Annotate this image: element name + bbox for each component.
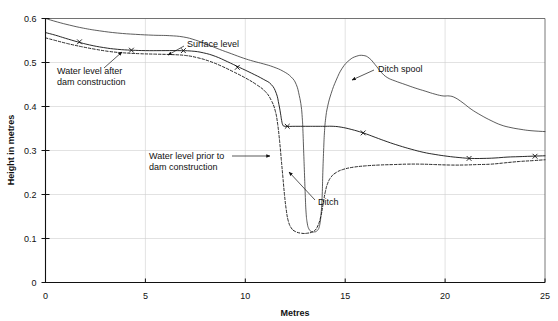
x-tick-label: 0 xyxy=(43,291,48,301)
annotation-label-water-level-after: Water level afterdam construction xyxy=(57,66,126,87)
x-tick-label: 20 xyxy=(440,291,450,301)
y-tick-label: 0.5 xyxy=(24,58,37,68)
y-tick-label: 0.2 xyxy=(24,190,37,200)
annotation-label-water-level-prior: Water level prior todam construction xyxy=(149,151,224,172)
y-tick-label: 0.1 xyxy=(24,234,37,244)
y-tick-label: 0.4 xyxy=(24,102,37,112)
chart-container: 00.10.20.30.40.50.60510152025 Surface le… xyxy=(0,0,558,321)
x-axis-label: Metres xyxy=(280,308,309,318)
chart-background xyxy=(0,0,558,321)
y-tick-label: 0.6 xyxy=(24,14,37,24)
annotation-label-surface-level: Surface level xyxy=(187,39,239,49)
y-tick-label: 0.3 xyxy=(24,146,37,156)
x-tick-label: 5 xyxy=(143,291,148,301)
annotation-label-ditch-spool: Ditch spool xyxy=(378,64,423,74)
y-tick-label: 0 xyxy=(31,278,36,288)
x-tick-label: 10 xyxy=(240,291,250,301)
line-chart: 00.10.20.30.40.50.60510152025 Surface le… xyxy=(0,0,558,321)
x-tick-label: 25 xyxy=(540,291,550,301)
annotation-label-ditch: Ditch xyxy=(318,197,339,207)
y-axis-label: Height in metres xyxy=(6,115,16,186)
x-tick-label: 15 xyxy=(340,291,350,301)
